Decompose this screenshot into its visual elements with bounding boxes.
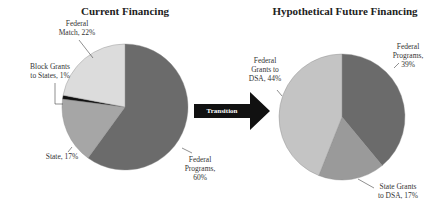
label-line: Federal bbox=[388, 42, 428, 51]
leader-federal-match bbox=[79, 40, 93, 58]
leader-federal-programs-left bbox=[182, 148, 192, 153]
left-chart-title: Current Financing bbox=[75, 5, 175, 17]
label-line: Grants to bbox=[245, 65, 285, 74]
label-federal-match: Federal Match, 22% bbox=[52, 19, 102, 37]
right-chart-title: Hypothetical Future Financing bbox=[270, 5, 420, 17]
transition-label: Transition bbox=[197, 107, 247, 115]
label-state: State, 17% bbox=[42, 152, 82, 161]
label-line: Match, 22% bbox=[52, 28, 102, 37]
label-federal-programs-left: Federal Programs, 60% bbox=[180, 155, 220, 182]
label-line: Federal bbox=[52, 19, 102, 28]
label-line: to States, 1% bbox=[20, 71, 80, 80]
label-federal-grants-dsa: Federal Grants to DSA, 44% bbox=[245, 56, 285, 83]
label-block-grants: Block Grants to States, 1% bbox=[20, 62, 80, 80]
label-line: State Grants bbox=[373, 182, 423, 191]
leader-block-grants bbox=[55, 83, 63, 104]
leader-federal-grants bbox=[277, 90, 282, 96]
label-line: DSA, 44% bbox=[245, 74, 285, 83]
label-line: Block Grants bbox=[20, 62, 80, 71]
label-federal-programs-right: Federal Programs, 39% bbox=[388, 42, 428, 69]
label-line: 60% bbox=[180, 173, 220, 182]
label-line: to DSA, 17% bbox=[373, 191, 423, 200]
label-line: Federal bbox=[245, 56, 285, 65]
leader-state-grants bbox=[358, 179, 374, 188]
pie-hypothetical-future-financing bbox=[279, 54, 405, 180]
label-state-grants-dsa: State Grants to DSA, 17% bbox=[373, 182, 423, 200]
label-line: Federal bbox=[180, 155, 220, 164]
label-line: Programs, bbox=[388, 51, 428, 60]
label-line: Programs, bbox=[180, 164, 220, 173]
label-line: 39% bbox=[388, 60, 428, 69]
